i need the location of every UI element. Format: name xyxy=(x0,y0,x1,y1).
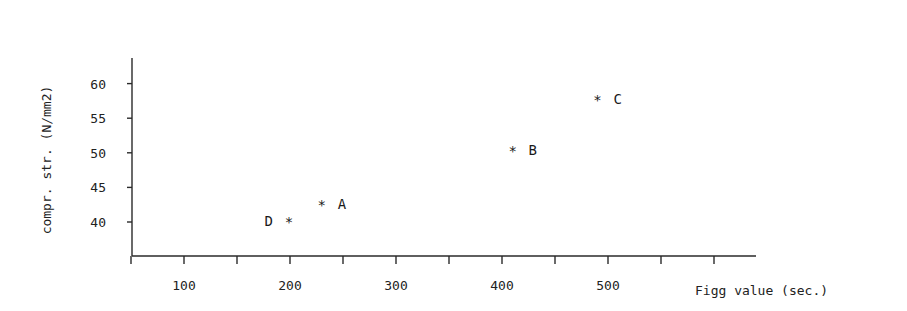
x-tick-label: 400 xyxy=(490,278,513,293)
data-point-marker: * xyxy=(318,197,326,213)
data-points: *A*B*C*D xyxy=(265,91,622,230)
data-point-marker: * xyxy=(593,92,601,108)
x-tick-label: 500 xyxy=(596,278,619,293)
scatter-chart: 100200300400500 4045505560 *A*B*C*D comp… xyxy=(0,0,907,311)
y-tick-label: 40 xyxy=(90,215,106,230)
x-tick-label: 200 xyxy=(278,278,301,293)
data-point-label: C xyxy=(613,91,621,107)
axes xyxy=(132,58,756,256)
x-tick-label: 100 xyxy=(172,278,195,293)
x-axis-label: Figg value (sec.) xyxy=(695,283,828,298)
data-point-marker: * xyxy=(285,214,293,230)
data-point-marker: * xyxy=(508,143,516,159)
data-point-label: B xyxy=(529,142,537,158)
y-tick-label: 55 xyxy=(90,111,106,126)
y-tick-label: 60 xyxy=(90,77,106,92)
x-ticks: 100200300400500 xyxy=(131,256,714,293)
y-tick-label: 50 xyxy=(90,146,106,161)
y-axis-label: compr. str. (N/mm2) xyxy=(39,86,54,235)
y-ticks: 4045505560 xyxy=(90,77,132,230)
y-tick-label: 45 xyxy=(90,180,106,195)
data-point-label: D xyxy=(265,213,273,229)
x-tick-label: 300 xyxy=(384,278,407,293)
data-point-label: A xyxy=(338,196,347,212)
